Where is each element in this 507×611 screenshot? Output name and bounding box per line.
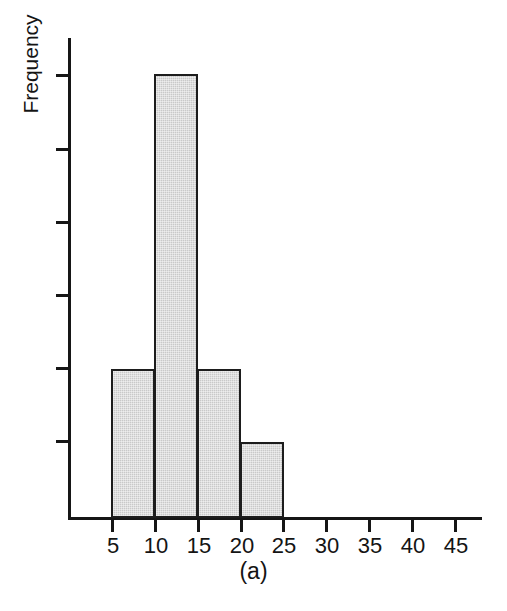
histogram-figure: Frequency 5 10 15 20 25 30 35 40 45 (a) [0,0,507,611]
y-axis-tick [56,74,71,77]
y-axis-label: Frequency [14,0,48,184]
y-axis-line [68,38,71,520]
x-axis-tick [197,519,200,532]
y-axis-tick [56,221,71,224]
y-axis-tick [56,367,71,370]
y-axis-tick [56,148,71,151]
x-axis-tick [240,519,243,532]
histogram-bar [197,369,241,518]
x-axis-tick-label: 45 [431,533,481,559]
figure-caption: (a) [0,558,507,585]
histogram-bar [111,369,155,518]
x-axis-tick [454,519,457,532]
x-axis-tick [325,519,328,532]
x-axis-tick [368,519,371,532]
x-axis-tick [154,519,157,532]
histogram-bar [154,74,198,518]
x-axis-tick [411,519,414,532]
y-axis-tick [56,294,71,297]
histogram-bar [240,442,284,518]
x-axis-tick [111,519,114,532]
x-axis-tick [282,519,285,532]
y-axis-tick [56,440,71,443]
